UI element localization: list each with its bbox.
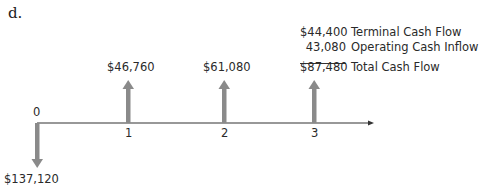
period-0: 0: [33, 105, 40, 119]
arrow-up-icon: [309, 80, 321, 89]
period-1: 1: [125, 126, 132, 140]
arrow-up-icon: [123, 80, 135, 89]
breakdown-row-total: $87,480Total Cash Flow: [300, 60, 440, 74]
outflow-arrow-0: [35, 123, 40, 161]
breakdown-row-operating: 43,080Operating Cash Inflow: [300, 40, 479, 54]
arrow-up-icon: [219, 80, 231, 89]
breakdown-row-terminal: $44,400Terminal Cash Flow: [300, 25, 462, 39]
inflow-arrow-1: [126, 87, 131, 123]
amount-period-1: $46,760: [107, 60, 155, 74]
inflow-arrow-3: [312, 87, 317, 123]
arrow-down-icon: [32, 159, 44, 168]
axis-arrowhead-icon: [368, 121, 374, 126]
period-3: 3: [311, 126, 318, 140]
amount-period-2: $61,080: [203, 60, 251, 74]
period-2: 2: [221, 126, 228, 140]
amount-period-0: $137,120: [4, 172, 59, 186]
inflow-arrow-2: [222, 87, 227, 123]
